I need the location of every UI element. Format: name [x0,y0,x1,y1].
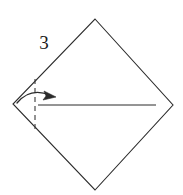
origami-diagram: 3 [0,0,183,195]
step-number-label: 3 [34,31,54,55]
diagram-canvas [0,0,183,195]
curved-fold-arrow-head [43,91,56,100]
